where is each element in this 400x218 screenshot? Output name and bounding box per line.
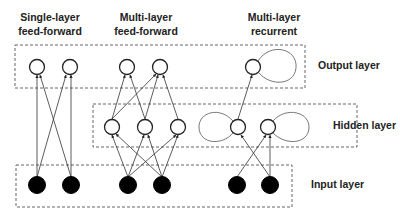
hidden-layer-box	[93, 104, 357, 147]
hidden-node	[105, 120, 120, 135]
hidden-node	[231, 120, 246, 135]
hidden-left-self-loop	[199, 112, 233, 141]
input-node	[262, 177, 279, 194]
single-layer-connections	[37, 75, 71, 177]
multi-layer-input-hidden-connections	[112, 134, 178, 177]
output-nodes	[30, 60, 261, 75]
output-node	[120, 60, 135, 75]
input-node	[63, 177, 80, 194]
output-node	[63, 60, 78, 75]
hidden-nodes	[105, 120, 276, 135]
input-node	[29, 177, 46, 194]
multi-layer-hidden-output-connections	[112, 74, 178, 119]
output-node	[30, 60, 45, 75]
output-node	[246, 60, 261, 75]
network-diagram	[0, 0, 400, 218]
input-nodes	[29, 177, 279, 194]
output-node	[153, 60, 168, 75]
input-node	[229, 177, 246, 194]
hidden-right-self-loop	[273, 112, 309, 141]
input-node	[120, 177, 137, 194]
hidden-node	[138, 120, 153, 135]
hidden-node	[261, 120, 276, 135]
output-self-loop	[258, 49, 296, 82]
hidden-node	[171, 120, 186, 135]
input-node	[154, 177, 171, 194]
